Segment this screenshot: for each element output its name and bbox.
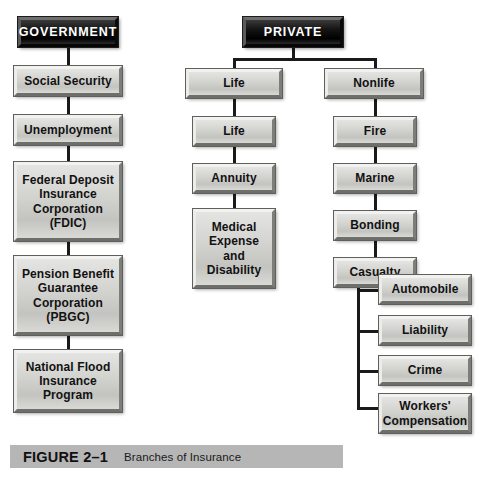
connector-nonlife-to-fire	[374, 98, 377, 117]
node-workers-compensation-label: Workers' Compensation	[381, 399, 470, 427]
node-government-label: GOVERNMENT	[17, 25, 120, 40]
connector-fdic-to-pbgc	[67, 240, 70, 256]
node-pbgc[interactable]: Pension Benefit Guarantee Corporation (P…	[14, 256, 122, 335]
node-government[interactable]: GOVERNMENT	[18, 17, 118, 47]
connector-government-to-social-security	[67, 46, 70, 66]
connector-casualty-to-automobile	[357, 289, 381, 292]
node-unemployment[interactable]: Unemployment	[14, 115, 122, 145]
node-fdic[interactable]: Federal Deposit Insurance Corporation (F…	[14, 162, 122, 241]
node-fdic-label: Federal Deposit Insurance Corporation (F…	[20, 173, 116, 230]
node-life-branch-label: Life	[221, 76, 247, 90]
node-private[interactable]: PRIVATE	[243, 17, 343, 47]
node-national-flood-insurance-program[interactable]: National Flood Insurance Program	[14, 350, 122, 412]
node-marine[interactable]: Marine	[334, 164, 416, 193]
node-life-branch[interactable]: Life	[186, 69, 282, 98]
figure-branches-of-insurance: GOVERNMENT Social Security Unemployment …	[0, 0, 484, 477]
node-workers-compensation[interactable]: Workers' Compensation	[379, 394, 471, 433]
node-marine-label: Marine	[353, 171, 396, 185]
connector-casualty-to-crime	[357, 370, 381, 373]
node-medical-expense-and-disability-label: Medical Expense and Disability	[205, 220, 263, 277]
node-liability[interactable]: Liability	[379, 316, 471, 345]
node-nonlife-branch[interactable]: Nonlife	[325, 69, 423, 98]
figure-number: FIGURE 2–1	[23, 449, 108, 465]
node-life-label: Life	[221, 124, 247, 138]
figure-title: Branches of Insurance	[124, 451, 241, 463]
connector-private-crossbar	[233, 58, 377, 61]
figure-caption-bar: FIGURE 2–1 Branches of Insurance	[10, 445, 343, 468]
node-bonding[interactable]: Bonding	[334, 211, 416, 240]
connector-annuity-to-medical	[233, 193, 236, 209]
node-medical-expense-and-disability[interactable]: Medical Expense and Disability	[193, 209, 275, 288]
connector-casualty-to-liability	[357, 330, 381, 333]
node-annuity-label: Annuity	[209, 171, 258, 185]
connector-casualty-trunk	[357, 288, 360, 410]
node-fire-label: Fire	[362, 124, 388, 138]
node-crime[interactable]: Crime	[379, 356, 471, 385]
connector-life-to-annuity	[233, 146, 236, 164]
node-unemployment-label: Unemployment	[22, 123, 114, 137]
connector-fire-to-marine	[374, 146, 377, 164]
connector-pbgc-to-flood	[67, 334, 70, 350]
connector-social-security-to-unemployment	[67, 95, 70, 115]
node-life[interactable]: Life	[193, 117, 275, 146]
connector-unemployment-to-fdic	[67, 144, 70, 162]
node-crime-label: Crime	[406, 363, 445, 377]
node-automobile-label: Automobile	[390, 282, 461, 296]
node-fire[interactable]: Fire	[334, 117, 416, 146]
node-annuity[interactable]: Annuity	[193, 164, 275, 193]
node-social-security[interactable]: Social Security	[14, 66, 122, 96]
connector-bonding-to-casualty	[374, 240, 377, 258]
node-liability-label: Liability	[400, 323, 450, 337]
node-automobile[interactable]: Automobile	[379, 275, 471, 304]
node-pbgc-label: Pension Benefit Guarantee Corporation (P…	[20, 267, 116, 324]
connector-marine-to-bonding	[374, 193, 377, 211]
node-social-security-label: Social Security	[22, 74, 114, 88]
connector-casualty-to-workers-comp	[357, 407, 381, 410]
node-national-flood-insurance-program-label: National Flood Insurance Program	[24, 360, 113, 402]
connector-life-branch-to-life	[233, 98, 236, 117]
node-nonlife-branch-label: Nonlife	[351, 76, 396, 90]
node-private-label: PRIVATE	[262, 25, 325, 40]
node-bonding-label: Bonding	[348, 218, 401, 232]
